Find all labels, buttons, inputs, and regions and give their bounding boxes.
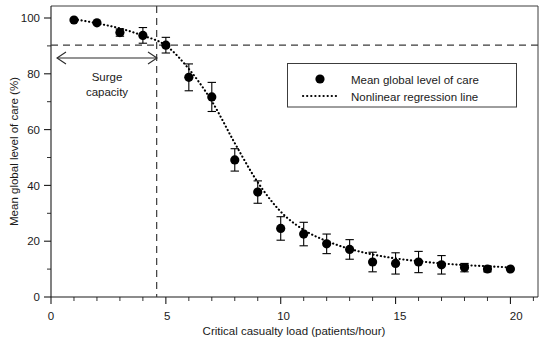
data-point [368, 257, 377, 266]
surge-capacity-arrow [57, 52, 157, 64]
data-point [506, 264, 515, 273]
y-tick-label: 80 [27, 68, 40, 80]
data-point [345, 245, 354, 254]
data-point [276, 224, 285, 233]
x-tick-label: 0 [48, 310, 54, 322]
chart-legend: Mean global level of care Nonlinear regr… [288, 64, 517, 108]
surge-capacity-label-line2: capacity [86, 86, 128, 98]
data-point-markers [69, 15, 515, 273]
y-tick-label: 100 [21, 12, 40, 24]
x-axis-title: Critical casualty load (patients/hour) [203, 325, 386, 337]
x-tick-label: 20 [510, 310, 523, 322]
nonlinear-regression-line [74, 19, 510, 267]
legend-label-regression: Nonlinear regression line [351, 91, 478, 103]
data-point [184, 73, 193, 82]
plot-frame [51, 6, 538, 297]
y-tick-label: 60 [27, 124, 40, 136]
x-tick-labels: 0 5 10 15 20 [48, 310, 523, 322]
data-point [92, 18, 101, 27]
data-point [414, 257, 423, 266]
x-tick-label: 10 [277, 310, 290, 322]
data-point [299, 229, 308, 238]
y-tick-label: 20 [27, 235, 40, 247]
data-point [115, 28, 124, 37]
y-tick-label: 40 [27, 180, 40, 192]
legend-label-mean: Mean global level of care [351, 74, 479, 86]
data-point [253, 187, 262, 196]
x-tick-label: 5 [164, 310, 170, 322]
x-tick-label: 15 [394, 310, 407, 322]
data-point [483, 264, 492, 273]
data-point [230, 155, 239, 164]
legend-marker-circle-icon [315, 74, 324, 83]
y-axis-ticks [44, 18, 51, 297]
data-point [460, 263, 469, 272]
x-axis-ticks [51, 297, 533, 304]
data-point [161, 41, 170, 50]
data-point [391, 259, 400, 268]
data-point [437, 260, 446, 269]
data-point [207, 92, 216, 101]
data-point [138, 31, 147, 40]
scatter-plot: 100 80 60 40 20 0 0 5 10 15 20 Critical … [0, 0, 549, 338]
y-tick-label: 0 [34, 291, 40, 303]
y-axis-title: Mean global level of care (%) [8, 77, 20, 226]
surge-capacity-label-line1: Surge [92, 71, 123, 83]
data-point [69, 15, 78, 24]
data-point [322, 239, 331, 248]
chart-figure: 100 80 60 40 20 0 0 5 10 15 20 Critical … [0, 0, 549, 338]
y-tick-labels: 100 80 60 40 20 0 [21, 12, 40, 303]
